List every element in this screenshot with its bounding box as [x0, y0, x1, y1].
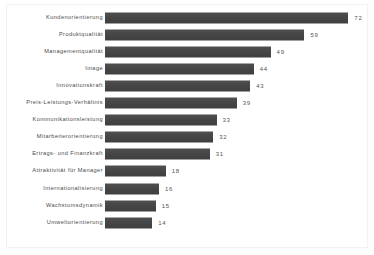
category-label: Preis-Leistungs-Verhältnis [26, 100, 103, 106]
table-row: Managementqualität49 [0, 43, 374, 60]
category-label: Wachstumsdynamik [46, 203, 103, 209]
bar [105, 217, 152, 228]
table-row: Image44 [0, 60, 374, 77]
category-label: Managementqualität [44, 49, 103, 55]
bar-value-label: 33 [223, 117, 231, 123]
bar-value-label: 39 [243, 100, 251, 106]
bar-value-label: 44 [260, 66, 268, 72]
table-row: Wachstumsdynamik15 [0, 197, 374, 214]
table-row: Kommunikationsleistung33 [0, 112, 374, 129]
table-row: Kundenorientierung72 [0, 9, 374, 26]
category-label: Image [85, 66, 103, 72]
bar [105, 98, 237, 109]
bar [105, 63, 254, 74]
bar-value-label: 59 [310, 32, 318, 38]
bar [105, 29, 304, 40]
bar-value-label: 43 [256, 83, 264, 89]
category-label: Umweltorientierung [47, 220, 103, 226]
bar [105, 12, 348, 23]
table-row: Innovationskraft43 [0, 77, 374, 94]
bar-value-label: 15 [162, 203, 170, 209]
category-label: Ertrags- und Finanzkraft [32, 152, 103, 158]
bar-value-label: 16 [165, 186, 173, 192]
category-label: Innovationskraft [56, 83, 103, 89]
bar-value-label: 18 [172, 168, 180, 174]
bar-rows: Kundenorientierung72Produktqualität59Man… [0, 0, 374, 255]
category-label: Attraktivität für Manager [32, 169, 103, 175]
bar-value-label: 32 [219, 134, 227, 140]
category-label: Internationalisierung [43, 186, 103, 192]
table-row: Produktqualität59 [0, 26, 374, 43]
table-row: Ertrags- und Finanzkraft31 [0, 146, 374, 163]
bar [105, 149, 210, 160]
bar [105, 132, 213, 143]
table-row: Umweltorientierung14 [0, 214, 374, 231]
table-row: Preis-Leistungs-Verhältnis39 [0, 95, 374, 112]
category-label: Kommunikationsleistung [32, 117, 103, 123]
bar-value-label: 14 [158, 220, 166, 226]
category-label: Produktqualität [59, 32, 103, 38]
category-label: Mitarbeiterorientierung [37, 134, 103, 140]
category-label: Kundenorientierung [46, 15, 103, 21]
table-row: Mitarbeiterorientierung32 [0, 129, 374, 146]
bar-value-label: 72 [354, 15, 362, 21]
bar-value-label: 49 [277, 49, 285, 55]
bar [105, 80, 250, 91]
bar [105, 115, 217, 126]
bar-value-label: 31 [216, 151, 224, 157]
bar-chart: Kundenorientierung72Produktqualität59Man… [0, 0, 374, 255]
bar [105, 166, 166, 177]
table-row: Attraktivität für Manager18 [0, 163, 374, 180]
bar [105, 200, 156, 211]
bar [105, 183, 159, 194]
bar [105, 46, 271, 57]
table-row: Internationalisierung16 [0, 180, 374, 197]
